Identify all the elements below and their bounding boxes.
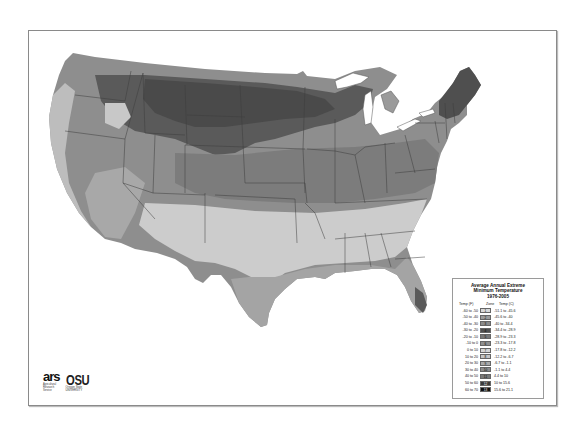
- logos: ars Agricultural Research Service OSU Or…: [43, 371, 97, 392]
- legend-zone-swatch: 2: [480, 315, 491, 320]
- legend-temp-c: 10 to 15.6: [494, 381, 534, 385]
- legend-zone-swatch: 4: [480, 328, 491, 333]
- legend-zone-swatch: 9: [480, 361, 491, 366]
- legend-row: -50 to -402-45.6 to -40: [453, 314, 543, 321]
- legend-temp-f: 60 to 70: [453, 388, 480, 392]
- legend-temp-c: -40 to -34.4: [494, 322, 534, 326]
- legend-zone-swatch: 1: [480, 308, 491, 313]
- ars-logo: ars Agricultural Research Service: [43, 371, 60, 392]
- legend-zone-swatch: 3: [480, 321, 491, 326]
- legend-temp-c: 15.6 to 21.1: [494, 388, 534, 392]
- legend-temp-f: -10 to 0: [453, 341, 480, 345]
- legend-temp-c: -23.3 to -17.8: [494, 341, 534, 345]
- legend-temp-f: 50 to 60: [453, 381, 480, 385]
- legend-row: -10 to 06-23.3 to -17.8: [453, 340, 543, 347]
- legend-col-fahrenheit: Temp (F): [459, 302, 486, 306]
- legend-temp-c: -28.9 to -23.3: [494, 335, 534, 339]
- ars-text-3: Service: [43, 389, 60, 392]
- legend-temp-f: -30 to -20: [453, 328, 480, 332]
- legend-temp-c: -12.2 to -6.7: [494, 355, 534, 359]
- ars-mark: ars: [43, 371, 60, 383]
- legend-row: 0 to 107-17.8 to -12.2: [453, 347, 543, 354]
- legend-row: -30 to -204-34.4 to -28.9: [453, 327, 543, 334]
- map-frame: Average Annual Extreme Minimum Temperatu…: [28, 30, 557, 406]
- legend-row: 10 to 208-12.2 to -6.7: [453, 353, 543, 360]
- legend-temp-c: 4.4 to 10: [494, 374, 534, 378]
- legend-row: -40 to -303-40 to -34.4: [453, 320, 543, 327]
- legend-zone-swatch: 6: [480, 341, 491, 346]
- osu-mark: OSU: [66, 373, 89, 386]
- osu-subtext: UNIVERSITY: [66, 389, 97, 392]
- legend-zone-swatch: 12: [480, 381, 491, 386]
- legend-temp-f: 10 to 20: [453, 355, 480, 359]
- legend-header: Temp (F) Zone Temp (C): [459, 302, 543, 306]
- legend-temp-c: -51.1 to -45.6: [494, 309, 534, 313]
- legend-zone-swatch: 13: [480, 387, 491, 392]
- map-legend: Average Annual Extreme Minimum Temperatu…: [452, 278, 544, 399]
- legend-zone-swatch: 7: [480, 348, 491, 353]
- legend-temp-f: 40 to 50: [453, 374, 480, 378]
- legend-temp-f: -40 to -30: [453, 322, 480, 326]
- lake-huron: [381, 91, 399, 113]
- legend-temp-f: 30 to 40: [453, 368, 480, 372]
- legend-temp-f: 0 to 10: [453, 348, 480, 352]
- legend-zone-swatch: 5: [480, 334, 491, 339]
- legend-temp-c: -6.7 to -1.1: [494, 361, 534, 365]
- legend-row: 60 to 701315.6 to 21.1: [453, 386, 543, 393]
- legend-rows: -60 to -501-51.1 to -45.6-50 to -402-45.…: [453, 307, 543, 393]
- legend-temp-c: -45.6 to -40: [494, 315, 534, 319]
- legend-row: 30 to 4010-1.1 to 4.4: [453, 367, 543, 374]
- legend-temp-c: -1.1 to 4.4: [494, 368, 534, 372]
- legend-temp-f: -50 to -40: [453, 315, 480, 319]
- legend-temp-c: -17.8 to -12.2: [494, 348, 534, 352]
- legend-col-zone: Zone: [486, 302, 499, 306]
- legend-temp-c: -34.4 to -28.9: [494, 328, 534, 332]
- legend-temp-f: -60 to -50: [453, 309, 480, 313]
- legend-zone-swatch: 11: [480, 374, 491, 379]
- legend-temp-f: -20 to -10: [453, 335, 480, 339]
- legend-row: -60 to -501-51.1 to -45.6: [453, 307, 543, 314]
- legend-zone-swatch: 10: [480, 367, 491, 372]
- legend-title: Average Annual Extreme Minimum Temperatu…: [453, 283, 543, 299]
- legend-zone-swatch: 8: [480, 354, 491, 359]
- legend-row: 20 to 309-6.7 to -1.1: [453, 360, 543, 367]
- legend-temp-f: 20 to 30: [453, 361, 480, 365]
- legend-col-celsius: Temp (C): [499, 302, 529, 306]
- legend-row: -20 to -105-28.9 to -23.3: [453, 334, 543, 341]
- legend-title-line3: 1976-2005: [453, 294, 543, 299]
- legend-row: 40 to 50114.4 to 10: [453, 373, 543, 380]
- legend-row: 50 to 601210 to 15.6: [453, 380, 543, 387]
- osu-logo: OSU Oregon State UNIVERSITY: [66, 373, 97, 392]
